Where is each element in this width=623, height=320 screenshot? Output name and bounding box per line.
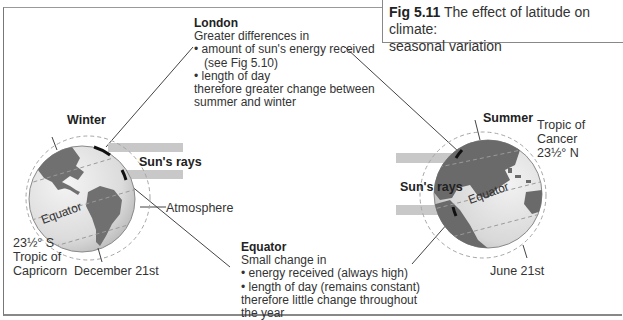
winter-tropic-lat: 23½° S <box>13 236 54 250</box>
winter-date: December 21st <box>74 264 159 278</box>
winter-sun-rays-label: Sun's rays <box>139 155 202 169</box>
summer-sun-rays-label: Sun's rays <box>400 180 463 194</box>
summer-tropic-name-2: Cancer <box>537 132 577 146</box>
figure-caption: Fig 5.11 The effect of latitude on clima… <box>382 0 623 43</box>
london-note: London Greater differences in • amount o… <box>194 17 375 109</box>
summer-label: Summer <box>483 111 533 125</box>
equator-leader-left <box>119 176 230 267</box>
london-note-bullet-1-ref: (see Fig 5.10) <box>194 57 375 70</box>
atmosphere-label: Atmosphere <box>166 201 233 215</box>
winter-label: Winter <box>67 113 106 127</box>
equator-note-bullet-1: • energy received (always high) <box>241 267 420 280</box>
london-leader-left <box>106 47 193 147</box>
london-note-bullet-1: • amount of sun's energy received <box>194 43 375 56</box>
summer-tropic-name-1: Tropic of <box>537 118 585 132</box>
winter-tropic-name-2: Capricorn <box>13 264 67 278</box>
figure-number: Fig 5.11 <box>389 4 440 20</box>
equator-note-conclusion-2: the year <box>241 307 420 320</box>
summer-tropic-lat: 23½° N <box>537 146 579 160</box>
summer-date: June 21st <box>490 264 544 278</box>
winter-tropic-name-1: Tropic of <box>13 250 61 264</box>
equator-note-bullet-2: • length of day (remains constant) <box>241 281 420 294</box>
equator-note: Equator Small change in • energy receive… <box>241 241 420 320</box>
london-note-conclusion-2: summer and winter <box>194 96 375 109</box>
figure-title-line2: seasonal variation <box>389 38 502 54</box>
